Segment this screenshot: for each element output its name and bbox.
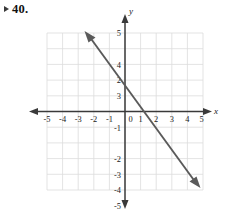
x-tick-2: 2	[154, 115, 158, 124]
coordinate-graph: -5 -4 -3 -2 -1 0 1 2 3 4 5 5 4 3 2 1 -1 …	[0, 0, 234, 218]
y-tick-4: 4	[117, 61, 122, 70]
x-tick--2: -2	[90, 115, 97, 124]
y-tick--5: -5	[114, 202, 121, 211]
y-tick-3: 3	[117, 92, 121, 101]
y-tick--4: -4	[114, 186, 122, 195]
x-tick--3: -3	[75, 115, 82, 124]
x-tick--5: -5	[44, 115, 51, 124]
x-axis-arrow-right	[203, 108, 212, 115]
y-axis-arrow-up	[122, 14, 129, 23]
plotted-line	[85, 31, 201, 188]
y-axis-tick-labels: 5 4 3 2 1 -1 -2 -3 -4 -5	[114, 29, 122, 211]
x-tick-3: 3	[170, 115, 174, 124]
y-axis-label: y	[128, 6, 133, 16]
x-tick-4: 4	[185, 115, 190, 124]
y-axis-arrow-down	[122, 200, 129, 209]
line-arrow-lower-right	[190, 177, 201, 189]
y-tick--1: -1	[114, 124, 121, 133]
x-tick-1: 1	[139, 115, 143, 124]
x-axis-tick-labels: -5 -4 -3 -2 -1 0 1 2 3 4 5	[44, 115, 204, 124]
line-segment	[89, 36, 196, 183]
x-axis-arrow-left	[29, 108, 38, 115]
axis-names: x y	[128, 6, 218, 116]
y-tick--2: -2	[114, 155, 121, 164]
x-tick--4: -4	[59, 115, 67, 124]
origin-label: 0	[128, 115, 132, 124]
x-tick--1: -1	[106, 115, 113, 124]
x-tick-5: 5	[199, 115, 203, 124]
y-tick--3: -3	[114, 171, 121, 180]
y-tick-5: 5	[117, 29, 121, 38]
x-axis-label: x	[213, 106, 218, 116]
graph-svg: -5 -4 -3 -2 -1 0 1 2 3 4 5 5 4 3 2 1 -1 …	[0, 0, 234, 218]
